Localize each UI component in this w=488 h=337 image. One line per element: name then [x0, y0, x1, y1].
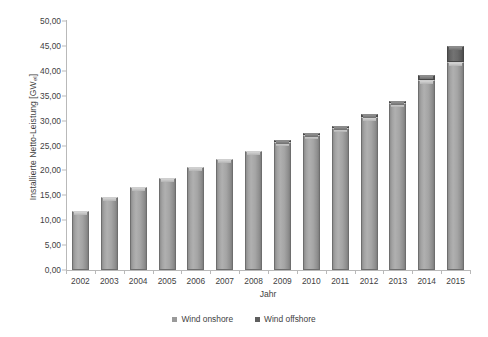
bar-stack: [303, 135, 320, 270]
y-axis-tick-label: 40,00: [40, 66, 61, 76]
bar-segment-onshore: [418, 80, 435, 270]
bar-stack: [130, 187, 147, 270]
bar-segment-onshore: [447, 62, 464, 270]
x-axis-tick-label: 2009: [273, 276, 292, 286]
legend-entry[interactable]: Wind onshore: [172, 314, 233, 324]
bar-stack: [101, 197, 118, 270]
y-axis-tick-label: 5,00: [45, 240, 61, 250]
plot-area: 50,0045,0040,0035,0030,0025,0020,0015,00…: [66, 21, 470, 270]
bar-stack: [216, 159, 233, 270]
bar-segment-offshore: [389, 101, 406, 104]
y-axis-tick-mark: [62, 195, 66, 196]
bar-stack: [159, 178, 176, 270]
x-axis-tick-mark: [95, 270, 96, 274]
y-axis-tick-mark: [62, 245, 66, 246]
bar-segment-onshore: [332, 128, 349, 270]
x-axis-tick-mark: [181, 270, 182, 274]
y-axis-tick-label: 10,00: [40, 215, 61, 225]
bar-segment-onshore: [72, 211, 89, 270]
x-axis-tick-mark: [326, 270, 327, 274]
y-axis-tick-label: 30,00: [40, 116, 61, 126]
legend-label: Wind onshore: [181, 314, 233, 324]
y-axis-tick-label: 45,00: [40, 41, 61, 51]
y-axis-tick-mark: [62, 170, 66, 171]
x-axis-tick-label: 2005: [158, 276, 177, 286]
y-axis-tick-mark: [62, 21, 66, 22]
bar-segment-offshore: [361, 114, 378, 117]
x-axis-tick-mark: [355, 270, 356, 274]
bar-segment-onshore: [159, 178, 176, 270]
bar-segment-onshore: [101, 197, 118, 270]
bar-segment-onshore: [303, 135, 320, 270]
bar-stack: [245, 151, 262, 270]
x-axis-tick-label: 2003: [100, 276, 119, 286]
legend-swatch-onshore-icon: [172, 317, 177, 322]
bar-segment-onshore: [361, 117, 378, 270]
x-axis-tick-mark: [297, 270, 298, 274]
bar-stack: [72, 211, 89, 270]
x-axis-title: Jahr: [66, 289, 470, 299]
bar-segment-offshore: [418, 75, 435, 80]
x-axis-tick-mark: [239, 270, 240, 274]
bar-segment-onshore: [216, 159, 233, 270]
bar-segment-offshore: [274, 140, 291, 143]
x-axis-tick-label: 2010: [302, 276, 321, 286]
bar-segment-onshore: [274, 142, 291, 270]
x-axis-tick-mark: [383, 270, 384, 274]
legend-entry[interactable]: Wind offshore: [255, 314, 316, 324]
bar-stack: [274, 142, 291, 270]
bar-stack: [447, 46, 464, 270]
y-axis-tick-mark: [62, 120, 66, 121]
bar-stack: [332, 127, 349, 270]
x-axis-tick-label: 2013: [389, 276, 408, 286]
x-axis-tick-mark: [412, 270, 413, 274]
x-axis-tick-label: 2015: [446, 276, 465, 286]
x-axis-tick-label: 2004: [129, 276, 148, 286]
x-axis-tick-label: 2007: [215, 276, 234, 286]
x-axis-tick-mark: [210, 270, 211, 274]
bar-segment-onshore: [245, 151, 262, 270]
y-axis-tick-label: 0,00: [45, 265, 61, 275]
x-axis-tick-mark: [124, 270, 125, 274]
bar-stack: [187, 167, 204, 270]
bar-segment-offshore: [332, 126, 349, 129]
x-axis-tick-label: 2011: [331, 276, 349, 286]
y-axis-title-subscript: el: [31, 76, 38, 81]
bar-stack: [389, 101, 406, 270]
y-axis-tick-label: 15,00: [40, 190, 61, 200]
x-axis-tick-mark: [441, 270, 442, 274]
y-axis-tick-label: 35,00: [40, 91, 61, 101]
bar-stack: [361, 115, 378, 270]
x-axis-tick-mark: [66, 270, 67, 274]
y-axis-tick-label: 20,00: [40, 165, 61, 175]
bar-segment-offshore: [447, 46, 464, 62]
chart-legend: Wind onshoreWind offshore: [0, 314, 488, 324]
x-axis-tick-mark: [268, 270, 269, 274]
y-axis-tick-mark: [62, 95, 66, 96]
x-axis-tick-mark: [470, 270, 471, 274]
x-axis-tick-label: 2008: [244, 276, 263, 286]
y-axis-tick-label: 50,00: [40, 16, 61, 26]
bar-segment-offshore: [303, 133, 320, 136]
legend-label: Wind offshore: [264, 314, 316, 324]
x-axis-tick-mark: [153, 270, 154, 274]
x-axis-tick-label: 2014: [417, 276, 436, 286]
y-axis-tick-mark: [62, 220, 66, 221]
bar-segment-onshore: [130, 187, 147, 270]
legend-swatch-offshore-icon: [255, 317, 260, 322]
bar-stack: [418, 75, 435, 270]
y-axis-tick-mark: [62, 145, 66, 146]
x-axis-tick-label: 2006: [187, 276, 206, 286]
y-axis-tick-label: 25,00: [40, 141, 61, 151]
x-axis-tick-label: 2012: [360, 276, 379, 286]
bar-segment-onshore: [187, 167, 204, 270]
bar-chart: Installierte Netto-Leistung [GWel] 50,00…: [0, 0, 488, 337]
bar-segment-onshore: [389, 103, 406, 270]
y-axis-title-main: Installierte Netto-Leistung [GW: [28, 81, 38, 200]
x-axis-tick-label: 2002: [71, 276, 90, 286]
y-axis-tick-mark: [62, 70, 66, 71]
y-axis-tick-mark: [62, 45, 66, 46]
